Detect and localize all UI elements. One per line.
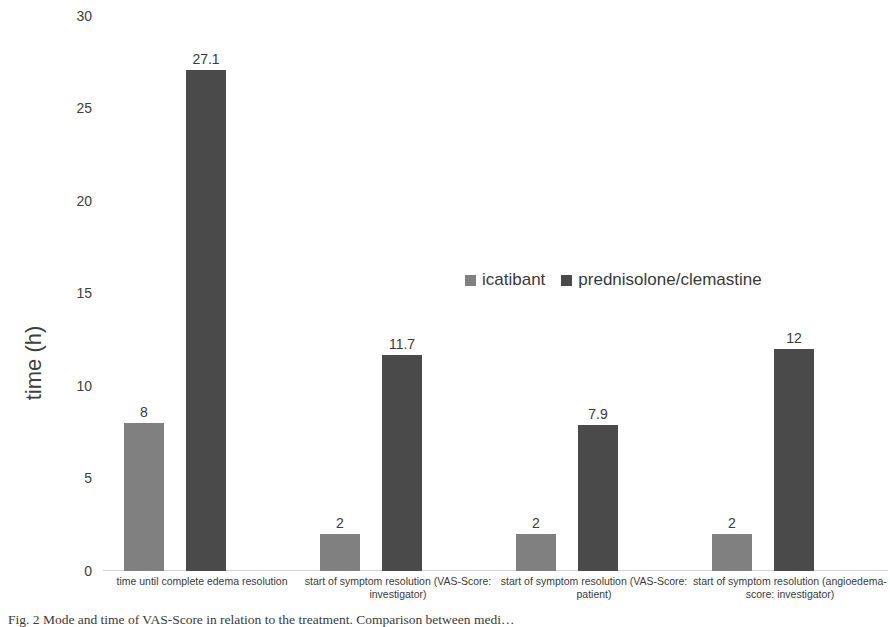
y-tick-label-25: 25 xyxy=(52,101,92,115)
x-category-label-3: start of symptom resolution (VAS-Score: … xyxy=(496,575,692,600)
legend-swatch-icon-icatibant xyxy=(465,275,476,286)
legend-label-prednisolone-clemastine: prednisolone/clemastine xyxy=(578,270,761,290)
bar-value-prednisolone-group1: 27.1 xyxy=(186,52,226,66)
legend-label-icatibant: icatibant xyxy=(482,270,545,290)
bar-chart-figure: time (h) 0 5 10 15 20 25 30 8 27.1 2 11.… xyxy=(0,0,890,627)
bar-icatibant-group2 xyxy=(320,534,360,571)
x-category-label-4: start of symptom resolution (angioedema-… xyxy=(692,575,888,600)
bar-value-icatibant-group3: 2 xyxy=(516,516,556,530)
y-tick-label-0: 0 xyxy=(52,564,92,578)
bar-icatibant-group3 xyxy=(516,534,556,571)
bar-prednisolone-group4 xyxy=(774,349,814,571)
figure-caption: Fig. 2 Mode and time of VAS-Score in rel… xyxy=(8,612,886,627)
bar-prednisolone-group1 xyxy=(186,70,226,571)
bar-value-icatibant-group4: 2 xyxy=(712,516,752,530)
y-tick-label-30: 30 xyxy=(52,9,92,23)
bar-value-prednisolone-group4: 12 xyxy=(774,331,814,345)
y-tick-label-20: 20 xyxy=(52,194,92,208)
x-category-label-2: start of symptom resolution (VAS-Score: … xyxy=(300,575,496,600)
y-tick-label-15: 15 xyxy=(52,286,92,300)
y-tick-label-10: 10 xyxy=(52,379,92,393)
y-tick-label-5: 5 xyxy=(52,471,92,485)
legend-item-prednisolone-clemastine: prednisolone/clemastine xyxy=(561,270,761,290)
legend-item-icatibant: icatibant xyxy=(465,270,545,290)
y-axis-title: time (h) xyxy=(21,303,47,423)
x-category-label-1: time until complete edema resolution xyxy=(104,575,300,588)
bar-prednisolone-group2 xyxy=(382,355,422,571)
bar-value-icatibant-group2: 2 xyxy=(320,516,360,530)
bar-value-icatibant-group1: 8 xyxy=(124,405,164,419)
bar-value-prednisolone-group3: 7.9 xyxy=(578,407,618,421)
chart-legend: icatibant prednisolone/clemastine xyxy=(465,270,762,290)
bar-icatibant-group4 xyxy=(712,534,752,571)
bar-value-prednisolone-group2: 11.7 xyxy=(382,337,422,351)
legend-swatch-icon-prednisolone-clemastine xyxy=(561,275,572,286)
bar-prednisolone-group3 xyxy=(578,425,618,571)
bar-icatibant-group1 xyxy=(124,423,164,571)
